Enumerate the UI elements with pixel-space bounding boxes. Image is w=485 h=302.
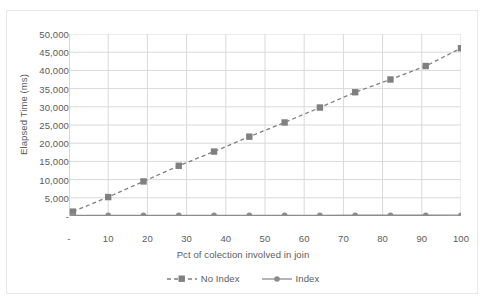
chart-container: Elapsed Time (ms) -5,00010,00015,00020,0… (6, 10, 478, 294)
data-point-marker (211, 213, 217, 216)
data-point-marker (458, 45, 461, 51)
y-axis-tick-label: 45,000 (21, 47, 69, 58)
data-point-marker (105, 213, 111, 216)
data-point-marker (387, 76, 393, 82)
data-point-marker (352, 212, 358, 216)
data-point-marker (140, 178, 146, 184)
y-axis-tick-label: 30,000 (21, 101, 69, 112)
y-axis-tick-label: 35,000 (21, 83, 69, 94)
series-line (73, 48, 461, 211)
data-point-marker (423, 63, 429, 69)
plot-area (69, 34, 461, 216)
data-point-marker (282, 213, 288, 216)
data-point-marker (281, 119, 287, 125)
data-point-marker (317, 104, 323, 110)
data-point-marker (423, 212, 429, 216)
y-axis-tick-label: 50,000 (21, 29, 69, 40)
y-axis-tick-label: - (21, 211, 69, 222)
chart-legend: No IndexIndex (7, 273, 479, 284)
data-point-marker (176, 213, 182, 216)
data-point-marker (105, 194, 111, 200)
data-point-marker (211, 148, 217, 154)
chart-plot-svg (69, 34, 461, 216)
y-axis-tick-label: 20,000 (21, 138, 69, 149)
data-point-marker (388, 212, 394, 216)
y-axis-tick-label: 5,000 (21, 192, 69, 203)
y-axis-tick-label: 10,000 (21, 174, 69, 185)
data-series-index (70, 212, 461, 216)
legend-marker-square-dashed-icon (167, 274, 197, 284)
legend-label: Index (296, 273, 320, 284)
data-point-marker (352, 89, 358, 95)
data-point-marker (246, 133, 252, 139)
legend-marker-circle-solid-icon (262, 274, 292, 284)
data-point-marker (458, 212, 461, 216)
x-axis-tick-label: 100 (436, 233, 485, 244)
data-point-marker (317, 212, 323, 216)
y-axis-tick-label: 40,000 (21, 65, 69, 76)
legend-entry-index[interactable]: Index (262, 273, 320, 284)
legend-entry-no-index[interactable]: No Index (167, 273, 240, 284)
x-axis-tick-labels: -102030405060708090100 (7, 233, 479, 249)
data-point-marker (176, 163, 182, 169)
y-axis-tick-label: 15,000 (21, 156, 69, 167)
x-axis-title: Pct of colection involved in join (7, 249, 479, 260)
y-axis-tick-label: 25,000 (21, 120, 69, 131)
data-point-marker (247, 213, 253, 216)
data-point-marker (141, 213, 147, 216)
legend-label: No Index (201, 273, 240, 284)
